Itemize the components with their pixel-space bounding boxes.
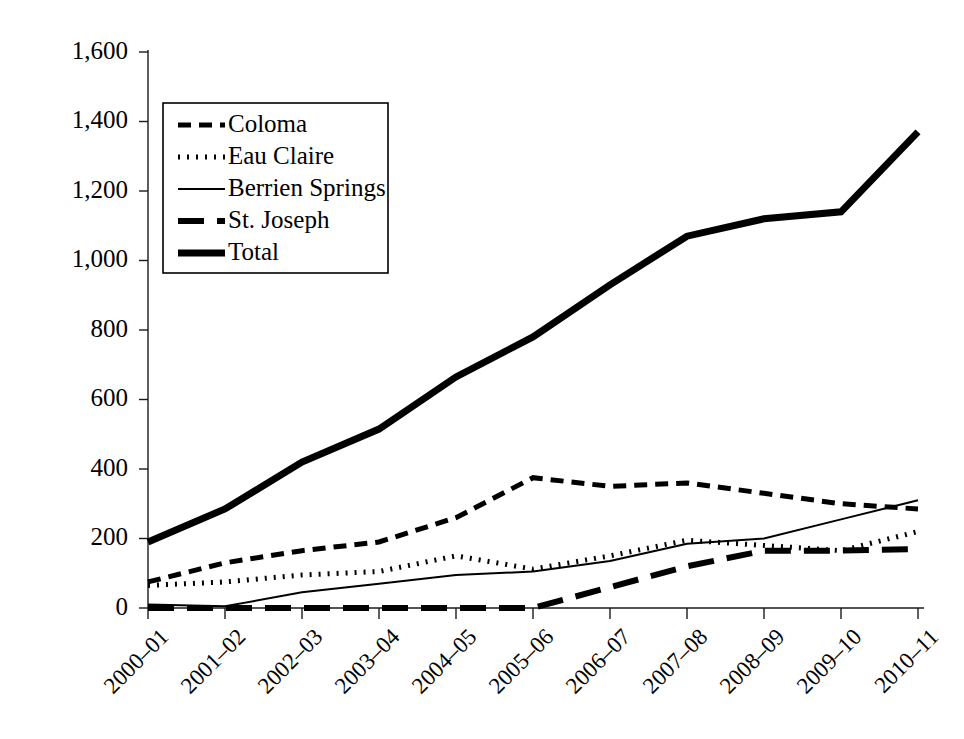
y-tick-label: 200 bbox=[91, 523, 129, 550]
y-axis: 02004006008001,0001,2001,4001,600 bbox=[72, 37, 148, 620]
x-axis: 2000–012001–022002–032003–042004–052005–… bbox=[99, 608, 944, 698]
x-tick-label: 2003–04 bbox=[330, 624, 405, 699]
legend-label: Total bbox=[228, 238, 279, 265]
x-tick-label: 2009–10 bbox=[792, 624, 867, 699]
chart-legend: ColomaEau ClaireBerrien SpringsSt. Josep… bbox=[163, 103, 388, 273]
x-tick-label: 2002–03 bbox=[253, 624, 328, 699]
x-tick-label: 2001–02 bbox=[176, 624, 251, 699]
x-tick-label: 2010–11 bbox=[870, 624, 944, 698]
legend-label: Berrien Springs bbox=[228, 174, 386, 201]
chart-canvas: 02004006008001,0001,2001,4001,600 2000–0… bbox=[0, 0, 964, 739]
legend-label: Coloma bbox=[228, 110, 307, 137]
y-tick-label: 1,000 bbox=[72, 245, 128, 272]
legend-label: Eau Claire bbox=[228, 142, 334, 169]
y-tick-label: 400 bbox=[91, 454, 129, 481]
x-tick-label: 2008–09 bbox=[715, 624, 790, 699]
series-line-eau-claire bbox=[148, 532, 918, 586]
y-tick-label: 1,400 bbox=[72, 106, 128, 133]
x-tick-label: 2007–08 bbox=[638, 624, 713, 699]
x-tick-label: 2005–06 bbox=[484, 624, 559, 699]
y-tick-label: 1,600 bbox=[72, 37, 128, 64]
y-tick-label: 800 bbox=[91, 315, 129, 342]
legend-label: St. Joseph bbox=[228, 206, 330, 233]
x-tick-label: 2000–01 bbox=[99, 624, 174, 699]
y-tick-label: 600 bbox=[91, 384, 129, 411]
y-tick-label: 0 bbox=[116, 593, 129, 620]
x-tick-label: 2004–05 bbox=[407, 624, 482, 699]
x-tick-label: 2006–07 bbox=[561, 624, 636, 699]
y-tick-label: 1,200 bbox=[72, 176, 128, 203]
line-chart-figure: 02004006008001,0001,2001,4001,600 2000–0… bbox=[0, 0, 964, 739]
series-line-berrien-springs bbox=[148, 500, 918, 606]
